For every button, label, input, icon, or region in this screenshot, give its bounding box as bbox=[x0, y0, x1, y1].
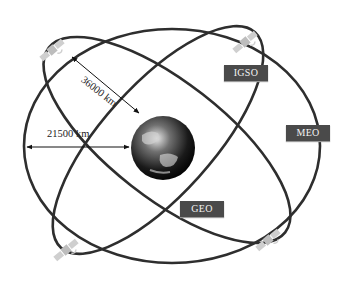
earth-globe bbox=[131, 116, 195, 180]
satellite-icon bbox=[232, 30, 261, 57]
horizontal-distance-label: 21500 km bbox=[47, 128, 89, 139]
navigation-orbit-diagram: 36000 km 21500 km IGSO MEO GEO bbox=[0, 0, 351, 284]
meo-label: MEO bbox=[286, 125, 330, 141]
igso-label: IGSO bbox=[224, 65, 268, 81]
geo-label: GEO bbox=[180, 201, 224, 217]
